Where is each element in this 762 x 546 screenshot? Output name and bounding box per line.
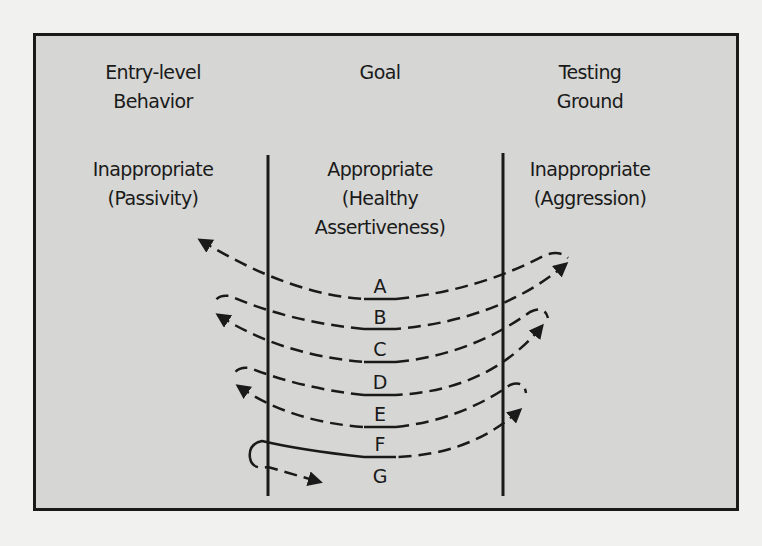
swing-d-left (233, 368, 364, 395)
step-f: F (375, 434, 386, 454)
swing-g (250, 458, 320, 482)
swing-b-left (214, 296, 364, 329)
swing-a-left (200, 240, 365, 299)
step-c: C (373, 339, 386, 359)
swing-e-right (396, 384, 526, 427)
swing-e-left (238, 386, 364, 427)
step-d: D (373, 372, 388, 392)
swing-d-right (396, 326, 542, 395)
step-a: A (374, 276, 387, 296)
swing-c-right (396, 310, 548, 362)
step-g: G (373, 466, 388, 486)
swing-c-left (218, 315, 364, 362)
swing-a-right (396, 253, 568, 299)
step-e: E (374, 404, 386, 424)
swing-f-right (396, 410, 520, 457)
step-b: B (373, 307, 386, 327)
